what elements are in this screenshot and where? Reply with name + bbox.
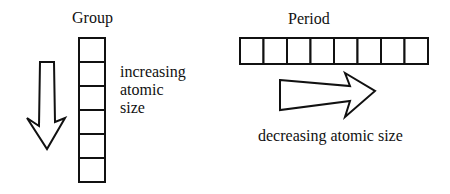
- group-column: [79, 38, 105, 182]
- period-title: Period: [288, 9, 330, 29]
- diagram-canvas: [0, 0, 450, 194]
- period-description: decreasing atomic size: [258, 126, 403, 146]
- period-row: [240, 38, 428, 64]
- group-description-line-3: size: [120, 98, 145, 118]
- group-description-line-1: increasing: [120, 62, 186, 82]
- right-arrow-icon: [280, 73, 375, 117]
- down-arrow-icon: [27, 62, 65, 149]
- group-description-line-2: atomic: [120, 80, 164, 100]
- group-title: Group: [72, 8, 113, 28]
